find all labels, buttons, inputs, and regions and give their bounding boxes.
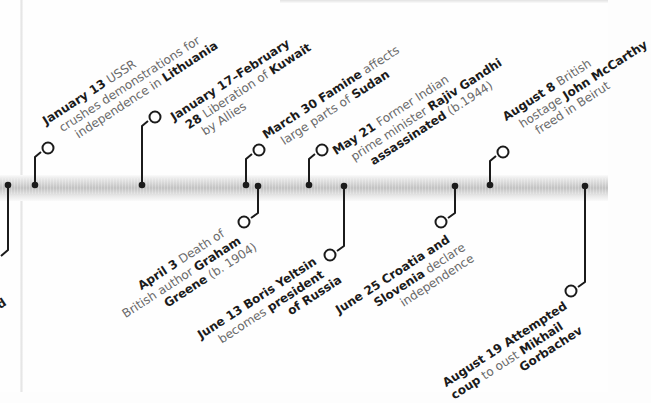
connector-jun13: [325, 185, 345, 261]
connector-may21: [309, 145, 328, 186]
connector-apr3: [239, 185, 259, 228]
connector-jun25: [436, 185, 456, 228]
connector-mar30: [246, 145, 265, 186]
connector-jan17: [142, 112, 161, 186]
band-markers: [5, 182, 589, 190]
connector-jan13: [35, 143, 54, 186]
connector-aug8: [490, 147, 509, 186]
connector-aug19: [566, 185, 586, 297]
connector-left-partial: [1, 185, 8, 256]
